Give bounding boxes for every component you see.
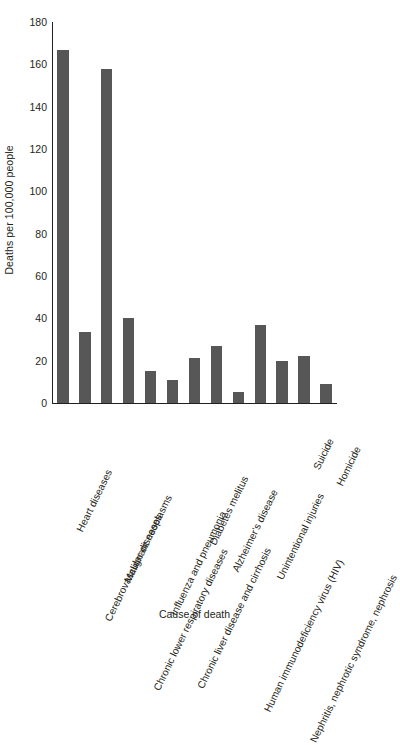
x-axis-title: Cause of death — [52, 608, 337, 620]
bar — [255, 325, 266, 403]
bar — [167, 380, 178, 403]
plot-area: 020406080100120140160180 Heart diseasesC… — [52, 22, 337, 403]
x-axis-tick-label: Suicide — [312, 437, 336, 472]
y-axis-tick-label: 40 — [21, 312, 47, 324]
x-axis-tick-label: Heart diseases — [75, 468, 114, 534]
y-axis-tick-label: 20 — [21, 355, 47, 367]
bar — [145, 371, 156, 403]
y-axis-tick-label: 180 — [21, 16, 47, 28]
x-axis-tick-label: Homicide — [335, 445, 363, 488]
bar — [57, 50, 68, 403]
y-axis-line — [52, 22, 53, 403]
x-axis-tick-label: Malignant neoplasms — [123, 494, 175, 585]
y-axis-tick-label: 160 — [21, 58, 47, 70]
bar — [233, 392, 244, 403]
y-axis-tick-label: 60 — [21, 270, 47, 282]
x-axis-line — [52, 403, 337, 404]
y-axis-tick-label: 140 — [21, 101, 47, 113]
bar — [298, 356, 309, 403]
x-axis-title-text: Cause of death — [159, 608, 230, 620]
x-axis-tick-label: Diabetes melitus — [208, 475, 251, 547]
bar — [211, 346, 222, 403]
bar — [79, 332, 90, 403]
bar — [276, 361, 287, 403]
y-axis-tick-label: 80 — [21, 228, 47, 240]
y-axis-title: Deaths per 100,000 people — [0, 90, 18, 330]
y-axis-tick-label: 0 — [21, 397, 47, 409]
y-axis-title-text: Deaths per 100,000 people — [3, 145, 15, 274]
bar — [320, 384, 331, 403]
bar — [101, 69, 112, 403]
y-axis-tick-label: 100 — [21, 185, 47, 197]
bar — [189, 358, 200, 404]
x-axis-tick-label: Unintentional injuries — [276, 492, 327, 582]
bar — [123, 318, 134, 403]
y-axis-tick-label: 120 — [21, 143, 47, 155]
